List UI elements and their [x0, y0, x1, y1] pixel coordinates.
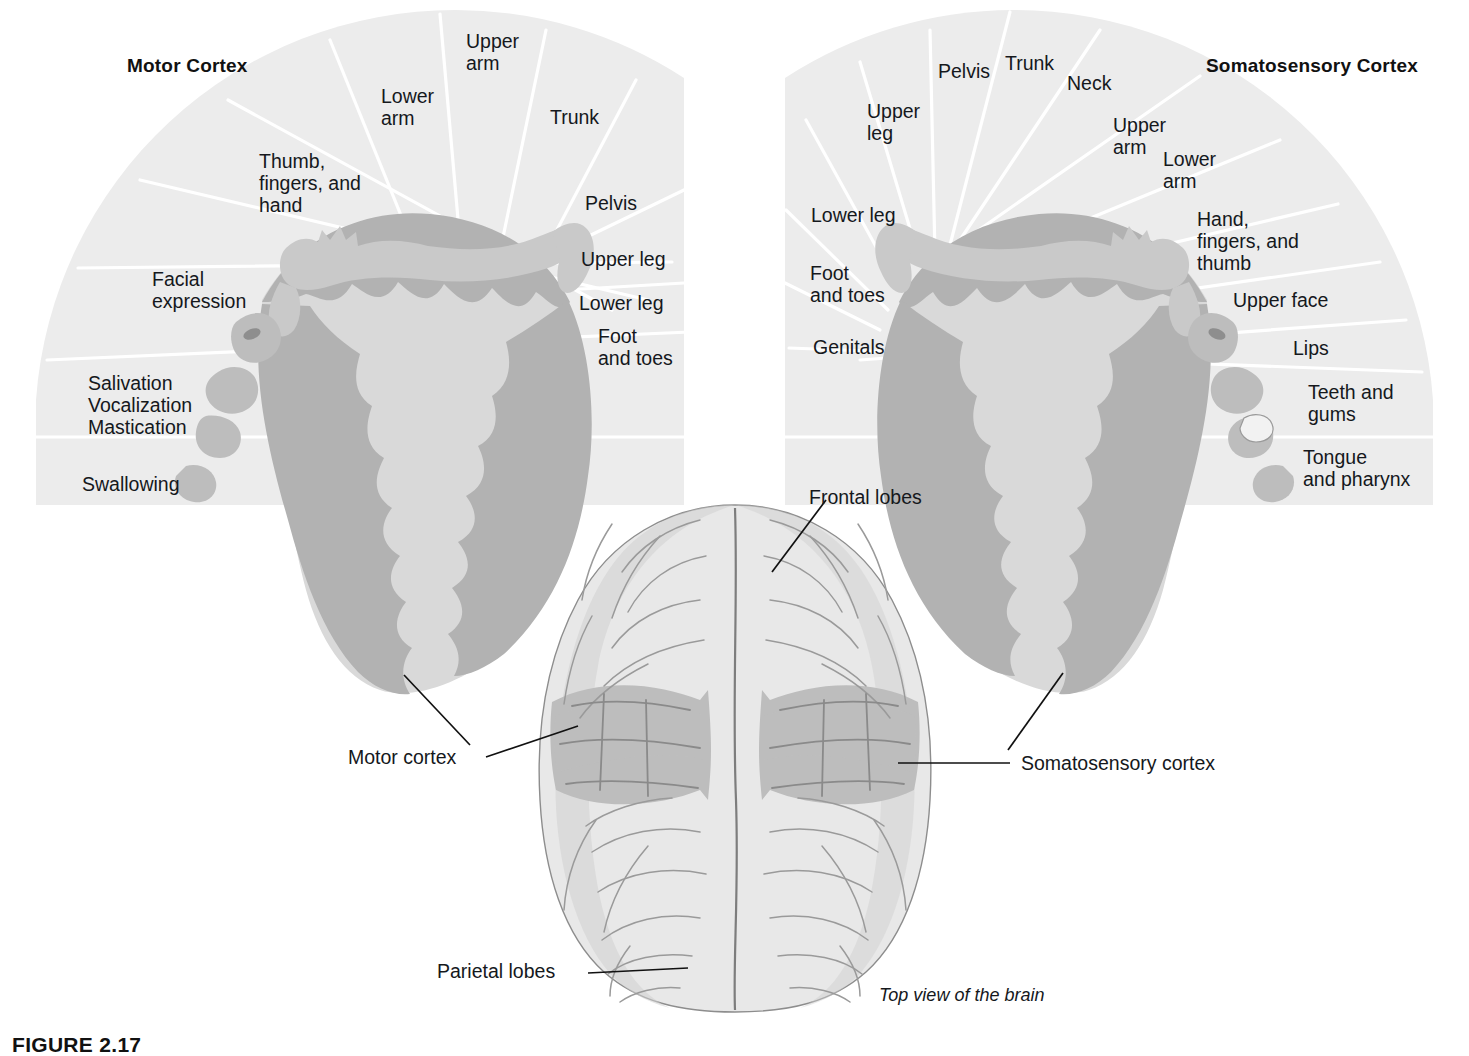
motor-segment-swallowing: Swallowing — [82, 473, 180, 495]
motor-segment-upper-leg: Upper leg — [581, 248, 666, 270]
somatosensory-segment-genitals: Genitals — [813, 336, 885, 358]
figure-caption-label: FIGURE 2.17 — [12, 1033, 141, 1056]
motor-segment-facial-expression: Facial expression — [152, 268, 246, 312]
brain-top-view — [539, 505, 931, 1012]
somatosensory-segment-teeth-and-gums: Teeth and gums — [1308, 381, 1394, 425]
motor-segment-salivation-vocalization-mastication: Salivation Vocalization Mastication — [88, 372, 192, 438]
motor-segment-thumb-fingers-hand: Thumb, fingers, and hand — [259, 150, 361, 216]
motor-segment-upper-arm: Upper arm — [466, 30, 519, 74]
motor-segment-trunk: Trunk — [550, 106, 599, 128]
motor-cortex-title: Motor Cortex — [127, 55, 248, 77]
somatosensory-segment-upper-leg: Upper leg — [867, 100, 920, 144]
somatosensory-segment-lower-leg: Lower leg — [811, 204, 896, 226]
motor-segment-lower-arm: Lower arm — [381, 85, 434, 129]
motor-segment-foot-and-toes: Foot and toes — [598, 325, 673, 369]
brain-label-parietal-lobes: Parietal lobes — [437, 960, 555, 982]
motor-segment-pelvis: Pelvis — [585, 192, 637, 214]
brain-label-somatosensory-cortex: Somatosensory cortex — [1021, 752, 1215, 774]
somatosensory-segment-neck: Neck — [1067, 72, 1111, 94]
teeth-detail — [1240, 415, 1273, 442]
somatosensory-segment-hand-fingers-thumb: Hand, fingers, and thumb — [1197, 208, 1299, 274]
somatosensory-segment-foot-and-toes: Foot and toes — [810, 262, 885, 306]
somatosensory-segment-upper-face: Upper face — [1233, 289, 1328, 311]
somatosensory-segment-lips: Lips — [1293, 337, 1329, 359]
motor-segment-lower-leg: Lower leg — [579, 292, 664, 314]
somatosensory-segment-lower-arm: Lower arm — [1163, 148, 1216, 192]
somatosensory-segment-pelvis: Pelvis — [938, 60, 990, 82]
somatosensory-cortex-title: Somatosensory Cortex — [1206, 55, 1418, 77]
somatosensory-segment-trunk: Trunk — [1005, 52, 1054, 74]
top-view-caption: Top view of the brain — [879, 985, 1044, 1006]
somatosensory-segment-tongue-and-pharynx: Tongue and pharynx — [1303, 446, 1410, 490]
brain-label-motor-cortex: Motor cortex — [348, 746, 456, 768]
somatosensory-segment-upper-arm: Upper arm — [1113, 114, 1166, 158]
brain-label-frontal-lobes: Frontal lobes — [809, 486, 922, 508]
